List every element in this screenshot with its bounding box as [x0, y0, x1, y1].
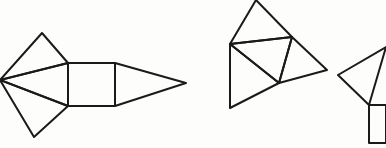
bottom-left-triangle — [230, 44, 279, 108]
nets-figure — [0, 0, 386, 148]
net-partial — [338, 47, 386, 143]
center-triangle — [230, 37, 292, 83]
square-base — [68, 63, 115, 106]
net-square-pyramid — [0, 33, 186, 137]
right-triangle — [279, 37, 327, 83]
bottom-kite-triangle — [0, 80, 68, 137]
left-triangle — [338, 47, 386, 105]
net-tetrahedron — [230, 0, 327, 108]
diagram-canvas — [0, 0, 386, 148]
right-triangle — [115, 63, 186, 106]
partial-square — [369, 105, 386, 143]
top-kite-triangle — [0, 33, 68, 80]
